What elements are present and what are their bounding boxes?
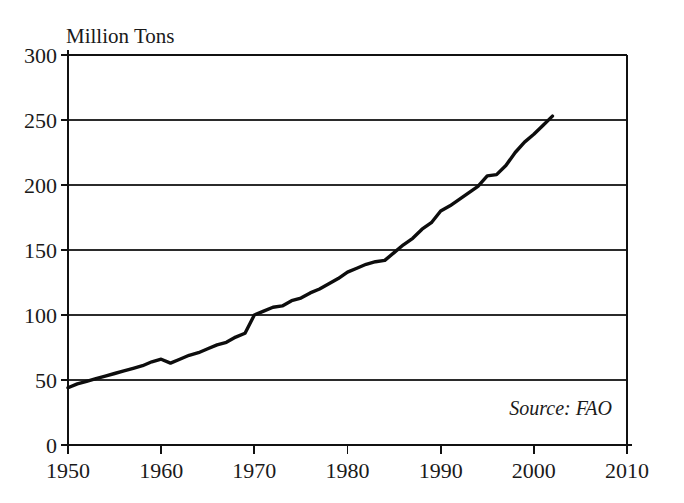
x-tick-label: 1980	[326, 458, 370, 483]
x-tick-label: 1960	[139, 458, 183, 483]
x-tick-label: 1950	[46, 458, 90, 483]
y-tick-label: 100	[24, 303, 57, 328]
chart-figure: 050100150200250300 195019601970198019902…	[0, 0, 684, 503]
y-axis-title: Million Tons	[66, 24, 174, 48]
y-tick-label: 300	[24, 43, 57, 68]
x-tick-label: 1970	[232, 458, 276, 483]
x-tick-label-group: 1950196019701980199020002010	[46, 458, 649, 483]
y-tick-label: 0	[46, 433, 57, 458]
y-tick-label: 200	[24, 173, 57, 198]
y-tick-label: 50	[35, 368, 57, 393]
x-tick-label: 1990	[419, 458, 463, 483]
source-note: Source: FAO	[509, 397, 612, 419]
x-tickmark-group	[68, 445, 627, 454]
x-tick-label: 2010	[605, 458, 649, 483]
y-tick-label-group: 050100150200250300	[24, 43, 57, 458]
y-tick-label: 150	[24, 238, 57, 263]
line-chart: 050100150200250300 195019601970198019902…	[0, 0, 684, 503]
x-tick-label: 2000	[512, 458, 556, 483]
y-tick-label: 250	[24, 108, 57, 133]
